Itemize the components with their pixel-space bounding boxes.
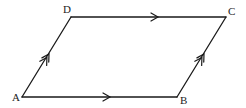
vertex-label-a: A <box>12 91 20 103</box>
vertex-label-b: B <box>180 94 187 106</box>
vertex-label-c: C <box>228 5 235 17</box>
parallelogram-diagram: A B C D <box>0 0 246 108</box>
vertex-label-d: D <box>63 3 71 15</box>
